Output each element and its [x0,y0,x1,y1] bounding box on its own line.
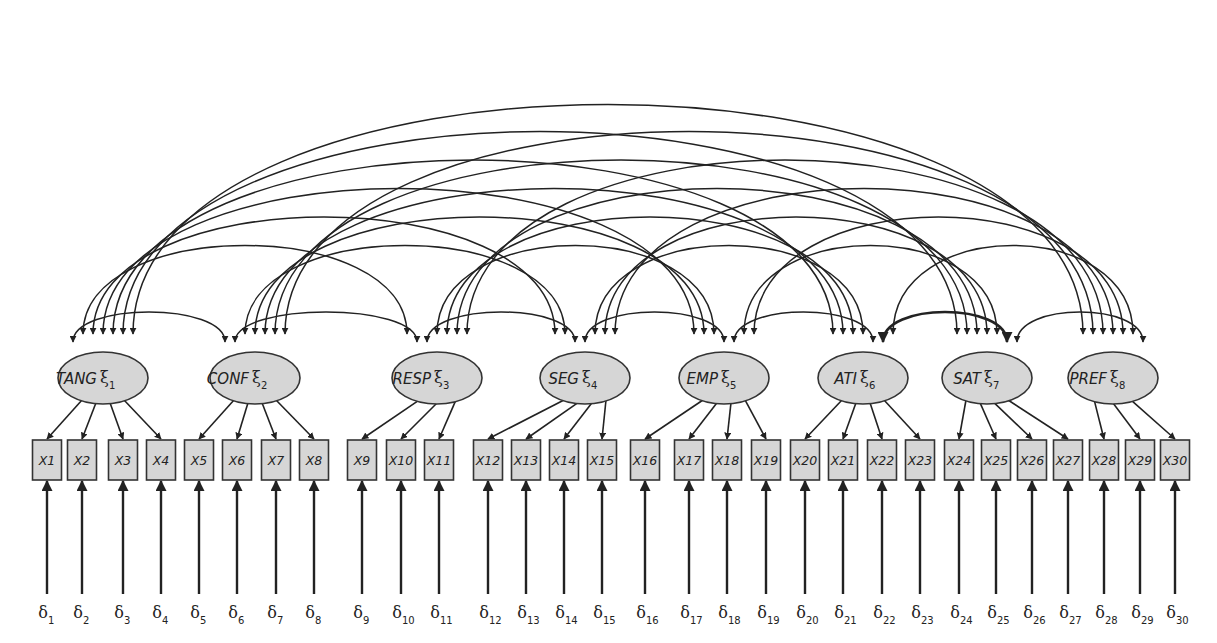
covariance-arc-seg-pref [615,189,1113,335]
error-term-delta-17: δ17 [680,603,703,626]
factor-symbol: ξ [100,368,109,387]
error-term-delta-3: δ3 [114,603,130,626]
delta-index: 12 [489,615,502,626]
indicator-label: X28 [1091,453,1117,468]
indicator-label: X29 [1127,453,1153,468]
indicator-x13: X13 [512,440,541,480]
delta-symbol: δ [987,603,997,622]
indicator-x25: X25 [982,440,1011,480]
error-term-delta-11: δ11 [430,603,453,626]
loading-arrow-x27 [1008,400,1068,439]
delta-symbol: δ [834,603,844,622]
indicator-label: X4 [152,453,170,468]
factor-seg: SEGξ4 [540,352,630,404]
loading-arrow-x30 [1132,401,1175,439]
factor-name: PREF [1069,370,1107,388]
error-term-delta-7: δ7 [267,603,283,626]
indicator-x16: X16 [631,440,660,480]
cfa-path-diagram: TANGξ1CONFξ2RESPξ3SEGξ4EMPξ5ATIξ6SATξ7PR… [0,0,1217,643]
delta-index: 24 [960,615,973,626]
delta-index: 23 [921,615,934,626]
delta-index: 2 [83,615,89,626]
error-term-delta-10: δ10 [392,603,415,626]
error-term-delta-8: δ8 [305,603,321,626]
delta-index: 3 [124,615,130,626]
factor-index: 7 [993,380,999,391]
delta-symbol: δ [190,603,200,622]
error-term-delta-28: δ28 [1095,603,1118,626]
delta-symbol: δ [636,603,646,622]
indicator-x4: X4 [147,440,176,480]
indicator-x28: X28 [1090,440,1119,480]
factor-index: 4 [591,380,597,391]
error-term-delta-13: δ13 [517,603,540,626]
covariance-arc-conf-emp [255,217,704,334]
indicator-x21: X21 [829,440,858,480]
delta-symbol: δ [1023,603,1033,622]
factor-resp: RESPξ3 [392,352,482,404]
loading-arrow-x20 [805,400,842,439]
error-term-delta-4: δ4 [152,603,168,626]
covariance-arc-tang-emp [103,189,694,335]
covariance-arc-emp-pref [754,217,1123,334]
delta-symbol: δ [38,603,48,622]
indicator-x20: X20 [791,440,820,480]
delta-index: 21 [844,615,857,626]
indicator-label: X6 [228,453,246,468]
loading-arrow-x28 [1094,401,1104,439]
factor-conf: CONFξ2 [207,352,300,404]
delta-index: 13 [527,615,540,626]
delta-index: 5 [200,615,206,626]
delta-symbol: δ [517,603,527,622]
error-paths [47,481,1175,594]
delta-symbol: δ [718,603,728,622]
error-term-delta-25: δ25 [987,603,1010,626]
loading-arrow-x5 [199,400,234,439]
error-term-delta-30: δ30 [1166,603,1189,626]
error-term-delta-20: δ20 [796,603,819,626]
delta-symbol: δ [353,603,363,622]
factor-name: CONF [207,370,250,388]
loading-arrow-x19 [745,400,766,439]
factor-tang: TANGξ1 [56,352,148,404]
factor-index: 6 [869,380,875,391]
covariance-arc-resp-sat [457,189,977,335]
delta-index: 29 [1141,615,1154,626]
delta-index: 30 [1176,615,1189,626]
delta-index: 15 [603,615,616,626]
error-term-delta-6: δ6 [228,603,244,626]
loading-arrow-x24 [959,400,966,439]
factor-symbol: ξ [860,368,869,387]
factor-index: 5 [730,380,736,391]
indicator-label: X19 [753,453,779,468]
loading-arrow-x6 [237,403,248,439]
loading-arrow-x21 [843,403,856,439]
delta-symbol: δ [555,603,565,622]
delta-symbol: δ [152,603,162,622]
indicator-label: X30 [1162,453,1188,468]
indicator-label: X17 [676,453,702,468]
indicator-label: X8 [305,453,323,468]
delta-index: 10 [402,615,415,626]
factor-symbol: ξ [984,368,993,387]
error-term-delta-18: δ18 [718,603,741,626]
delta-index: 17 [690,615,703,626]
latent-factors: TANGξ1CONFξ2RESPξ3SEGξ4EMPξ5ATIξ6SATξ7PR… [56,352,1158,404]
indicator-label: X25 [983,453,1009,468]
delta-index: 22 [883,615,896,626]
indicator-x15: X15 [588,440,617,480]
delta-index: 16 [646,615,659,626]
indicator-label: X13 [513,453,539,468]
loading-arrow-x23 [884,400,920,439]
factor-emp: EMPξ5 [679,352,769,404]
loading-arrow-x14 [564,403,592,439]
indicator-x7: X7 [262,440,291,480]
factor-name: SEG [548,370,579,388]
loading-arrow-x13 [526,403,578,439]
indicator-label: X26 [1019,453,1045,468]
loading-arrow-x17 [689,403,717,439]
factor-name: RESP [393,370,432,388]
indicator-x14: X14 [550,440,579,480]
delta-symbol: δ [392,603,402,622]
factor-symbol: ξ [434,368,443,387]
